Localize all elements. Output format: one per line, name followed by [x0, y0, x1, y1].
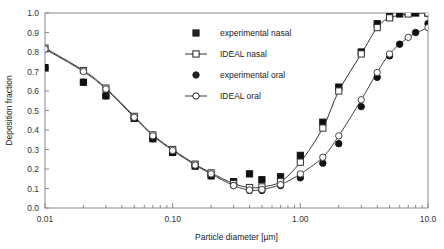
data-point: [358, 51, 364, 57]
y-tick-label: 0.4: [27, 125, 39, 135]
data-point: [336, 140, 342, 146]
y-tick-label: 0.8: [27, 47, 39, 57]
data-point: [246, 171, 252, 177]
data-point: [246, 187, 252, 193]
data-point: [320, 119, 326, 125]
data-point: [80, 68, 86, 74]
data-point: [277, 181, 283, 187]
y-tick-label: 0.0: [27, 203, 39, 213]
legend-marker: [193, 51, 199, 57]
data-point: [320, 125, 326, 131]
data-point: [425, 24, 431, 30]
y-tick-label: 0.1: [27, 184, 39, 194]
data-point: [405, 34, 411, 40]
data-point: [374, 69, 380, 75]
data-point: [80, 79, 86, 85]
legend-item-1: IDEAL nasal: [185, 49, 267, 59]
legend-label: experimental oral: [220, 70, 285, 80]
data-point: [192, 162, 198, 168]
y-tick-label: 0.5: [27, 106, 39, 116]
data-point: [374, 25, 380, 31]
x-axis-title: Particle diameter [µm]: [195, 232, 278, 242]
data-point: [259, 186, 265, 192]
data-point: [396, 41, 402, 47]
data-point: [42, 46, 48, 52]
data-point: [336, 133, 342, 139]
series-markers-2: [42, 21, 431, 194]
chart-figure: experimental nasalIDEAL nasalexperimenta…: [0, 0, 444, 249]
data-point: [297, 152, 303, 158]
y-tick-label: 0.2: [27, 164, 39, 174]
x-tick-label: 0.10: [164, 214, 181, 224]
y-tick-label: 0.6: [27, 86, 39, 96]
data-point: [386, 15, 392, 21]
data-point: [131, 114, 137, 120]
legend-layer: experimental nasalIDEAL nasalexperimenta…: [185, 28, 291, 101]
legend-item-3: IDEAL oral: [185, 91, 261, 101]
y-tick-label: 0.9: [27, 28, 39, 38]
data-point: [358, 97, 364, 103]
data-point: [405, 11, 411, 17]
data-point: [103, 93, 109, 99]
x-tick-label: 1.00: [292, 214, 309, 224]
data-point: [169, 147, 175, 153]
data-point: [150, 133, 156, 139]
legend-item-0: experimental nasal: [193, 28, 292, 38]
data-point: [297, 171, 303, 177]
labels-layer: 0.00.10.20.30.40.50.60.70.80.91.00.010.1…: [4, 8, 437, 242]
data-point: [397, 11, 403, 17]
data-point: [208, 171, 214, 177]
legend-label: IDEAL oral: [220, 91, 261, 101]
legend-label: experimental nasal: [220, 28, 291, 38]
data-point: [103, 86, 109, 92]
data-point: [259, 177, 265, 183]
y-tick-label: 0.3: [27, 145, 39, 155]
data-point: [386, 51, 392, 57]
x-tick-label: 10.0: [420, 214, 437, 224]
data-point: [412, 29, 418, 35]
data-point: [336, 88, 342, 94]
deposition-fraction-chart: experimental nasalIDEAL nasalexperimenta…: [0, 0, 444, 249]
legend-marker: [193, 30, 199, 36]
x-tick-label: 0.01: [37, 214, 54, 224]
data-point: [358, 103, 364, 109]
legend-label: IDEAL nasal: [220, 49, 267, 59]
data-point: [42, 64, 48, 70]
data-point: [320, 154, 326, 160]
y-axis-title: Deposition fraction: [4, 75, 14, 146]
data-point: [297, 159, 303, 165]
y-tick-label: 0.7: [27, 67, 39, 77]
legend-marker: [193, 72, 199, 78]
data-point: [230, 182, 236, 188]
legend-marker: [193, 93, 199, 99]
y-tick-label: 1.0: [27, 8, 39, 18]
legend-item-2: experimental oral: [193, 70, 286, 80]
